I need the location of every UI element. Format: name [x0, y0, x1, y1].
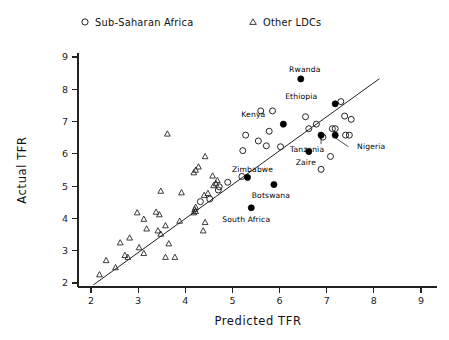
leader-line-nigeria: [335, 138, 348, 147]
y-tick-label-7: 7: [62, 116, 68, 127]
data-point-other-ldc: [158, 188, 164, 193]
data-point-sub-saharan-africa: [346, 132, 352, 138]
reference-line: [93, 79, 379, 285]
circle-open-icon: [82, 19, 88, 25]
data-point-other-ldc: [141, 250, 147, 255]
y-axis-ticks: 23456789: [62, 51, 78, 288]
triangle-open-icon: [250, 19, 257, 25]
point-label-nigeria: Nigeria: [357, 142, 385, 151]
x-tick-label-8: 8: [371, 295, 377, 306]
x-tick-label-3: 3: [135, 295, 141, 306]
x-axis-ticks: 23456789: [88, 287, 424, 306]
point-label-zaire: Zaire: [296, 158, 317, 167]
y-tick-label-3: 3: [62, 245, 68, 256]
data-point-other-ldc: [165, 131, 171, 136]
legend-label-sub-saharan-africa: Sub-Saharan Africa: [95, 17, 193, 28]
series-labeled-countries: RwandaEthiopiaKenyaTanzaniaNigeriaZaireZ…: [222, 65, 385, 224]
data-point-sub-saharan-africa: [225, 179, 231, 185]
data-point-botswana: [271, 181, 277, 187]
x-axis-title: Predicted TFR: [214, 314, 301, 328]
data-point-sub-saharan-africa: [243, 132, 249, 138]
data-point-other-ldc: [200, 228, 206, 233]
data-point-sub-saharan-africa: [303, 114, 309, 120]
data-point-sub-saharan-africa: [342, 113, 348, 119]
data-point-other-ldc: [141, 216, 147, 221]
point-label-south-africa: South Africa: [222, 215, 270, 224]
x-tick-label-5: 5: [229, 295, 235, 306]
legend-label-other-ldcs: Other LDCs: [263, 17, 321, 28]
y-tick-label-6: 6: [62, 148, 68, 159]
data-point-south-africa: [248, 205, 254, 211]
x-tick-label-4: 4: [182, 295, 188, 306]
data-point-sub-saharan-africa: [263, 143, 269, 149]
data-point-other-ldc: [172, 254, 178, 259]
plot-canvas: Sub-Saharan Africa Other LDCs 23456789 2…: [0, 0, 449, 340]
data-point-other-ldc: [210, 173, 216, 178]
x-tick-label-9: 9: [418, 295, 424, 306]
y-tick-label-9: 9: [62, 51, 68, 62]
point-label-zimbabwe: Zimbabwe: [232, 165, 273, 174]
series-sub-saharan-africa: [197, 99, 354, 205]
point-label-rwanda: Rwanda: [289, 65, 320, 74]
data-point-other-ldc: [158, 231, 164, 236]
x-tick-label-7: 7: [324, 295, 330, 306]
y-axis-title: Actual TFR: [15, 136, 29, 203]
x-tick-label-2: 2: [88, 295, 94, 306]
data-point-ethiopia: [332, 101, 338, 107]
data-point-other-ldc: [103, 257, 109, 262]
data-point-other-ldc: [163, 223, 169, 228]
data-point-zimbabwe: [244, 174, 250, 180]
data-point-other-ldc: [117, 240, 123, 245]
data-point-zaire: [306, 148, 312, 154]
data-point-other-ldc: [136, 244, 142, 249]
scatter-plot-figure: Sub-Saharan Africa Other LDCs 23456789 2…: [0, 0, 449, 340]
data-point-sub-saharan-africa: [318, 166, 324, 172]
data-point-sub-saharan-africa: [338, 99, 344, 105]
data-point-other-ldc: [202, 219, 208, 224]
x-tick-label-6: 6: [277, 295, 283, 306]
data-point-sub-saharan-africa: [278, 144, 284, 150]
data-point-sub-saharan-africa: [270, 108, 276, 114]
data-point-other-ldc: [127, 235, 133, 240]
data-point-rwanda: [298, 76, 304, 82]
data-point-sub-saharan-africa: [266, 128, 272, 134]
y-tick-label-2: 2: [62, 277, 68, 288]
data-point-other-ldc: [97, 272, 103, 277]
data-point-sub-saharan-africa: [197, 199, 203, 205]
data-point-other-ldc: [144, 226, 150, 231]
data-point-tanzania: [318, 132, 324, 138]
point-label-ethiopia: Ethiopia: [285, 92, 317, 101]
y-tick-label-4: 4: [62, 213, 68, 224]
point-label-kenya: Kenya: [241, 110, 265, 119]
data-point-other-ldc: [166, 241, 172, 246]
data-point-nigeria: [332, 132, 338, 138]
data-point-sub-saharan-africa: [348, 116, 354, 122]
legend: Sub-Saharan Africa Other LDCs: [82, 17, 321, 28]
y-tick-label-5: 5: [62, 181, 68, 192]
point-label-botswana: Botswana: [252, 191, 290, 200]
data-point-other-ldc: [202, 153, 208, 158]
y-tick-label-8: 8: [62, 84, 68, 95]
data-point-sub-saharan-africa: [240, 148, 246, 154]
data-point-other-ldc: [179, 190, 185, 195]
data-point-other-ldc: [134, 210, 140, 215]
data-point-other-ldc: [163, 254, 169, 259]
data-point-sub-saharan-africa: [255, 138, 261, 144]
identity-reference-line: [93, 79, 379, 285]
data-point-sub-saharan-africa: [327, 153, 333, 159]
data-point-kenya: [280, 121, 286, 127]
